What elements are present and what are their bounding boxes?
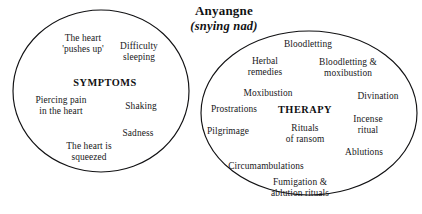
- therapy-moxibustion: Moxibustion: [243, 88, 292, 99]
- symptoms-group-label: SYMPTOMS: [73, 77, 137, 88]
- therapy-bloodletting: Bloodletting: [284, 39, 332, 50]
- symptom-sadness: Sadness: [123, 128, 154, 139]
- therapy-ablutions: Ablutions: [345, 147, 383, 158]
- therapy-herbal-remedies: Herbal remedies: [248, 56, 283, 77]
- symptom-shaking: Shaking: [125, 101, 156, 112]
- therapy-group-label: THERAPY: [278, 104, 332, 115]
- symptom-heart-pushes-up: The heart 'pushes up': [62, 33, 104, 54]
- therapy-fumigation-ablution-rituals: Fumigation & ablution rituals: [271, 177, 329, 198]
- page-subtitle: (snying nad): [190, 19, 257, 34]
- therapy-incense-ritual: Incense ritual: [353, 114, 382, 135]
- symptom-piercing-pain: Piercing pain in the heart: [35, 95, 86, 116]
- therapy-pilgrimage: Pilgrimage: [207, 126, 249, 137]
- page-title: Anyangne: [195, 3, 253, 19]
- symptom-difficulty-sleeping: Difficulty sleeping: [120, 41, 158, 62]
- therapy-divination: Divination: [357, 91, 398, 102]
- therapy-circumambulations: Circumambulations: [228, 161, 304, 172]
- therapy-prostrations: Prostrations: [211, 104, 257, 115]
- therapy-bloodletting-moxibustion: Bloodletting & moxibustion: [319, 57, 377, 78]
- anyangne-diagram: Anyangne (snying nad) SYMPTOMS The heart…: [0, 0, 422, 214]
- therapy-rituals-of-ransom: Rituals of ransom: [286, 123, 325, 144]
- symptom-heart-squeezed: The heart is squeezed: [66, 141, 111, 162]
